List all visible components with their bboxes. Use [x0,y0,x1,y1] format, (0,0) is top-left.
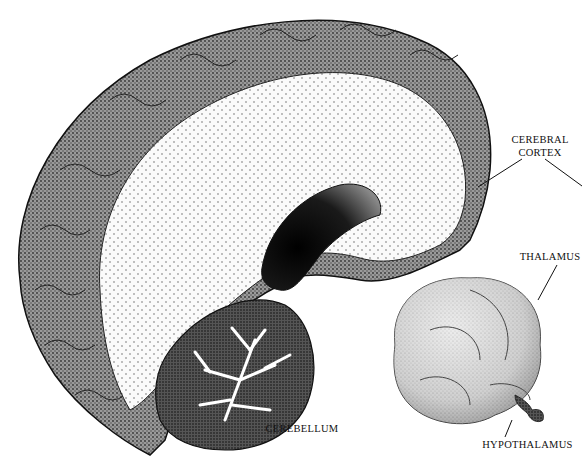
hypothalamus [515,395,543,422]
label-cerebral-cortex-line2: CORTEX [500,146,580,159]
label-hypothalamus: HYPOTHALAMUS [470,438,585,451]
label-thalamus: THALAMUS [515,250,585,263]
brain-illustration: CEREBRAL CORTEX THALAMUS CEREBELLUM HYPO… [0,0,585,475]
label-cerebral-cortex: CEREBRAL CORTEX [500,133,580,159]
leader-line-thalamus [538,265,557,300]
leader-line-cortex-right [545,159,582,186]
leader-line-hypothalamus [505,420,512,437]
label-cerebral-cortex-line1: CEREBRAL [500,133,580,146]
label-cerebellum: CEREBELLUM [262,422,342,435]
illustration-canvas [0,0,585,475]
